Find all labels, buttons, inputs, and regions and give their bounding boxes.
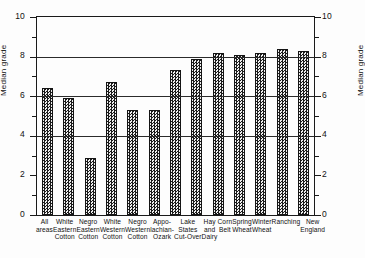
- bar-white-western-cotton: [106, 82, 117, 215]
- y-tick-left-4: [30, 136, 37, 137]
- y-tick-label-right-4: 4: [322, 130, 327, 139]
- median-grade-bar-chart: Median grade Median grade Allareas White…: [0, 0, 365, 258]
- bar-slot: [271, 17, 292, 215]
- bar-slot: [122, 17, 143, 215]
- y-tick-label-left-10: 10: [0, 12, 25, 21]
- x-category-label-1: WhiteEasternCotton: [53, 218, 76, 241]
- x-category-line: Cut-Over: [174, 233, 202, 241]
- bar-slot: [165, 17, 186, 215]
- x-category-label-0: Allareas: [36, 218, 53, 241]
- y-tick-left-3: [32, 156, 37, 157]
- y-tick-label-right-0: 0: [322, 210, 327, 219]
- x-category-line: England: [300, 226, 325, 234]
- y-tick-right-7: [314, 76, 319, 77]
- y-tick-label-left-2: 2: [0, 170, 25, 179]
- x-category-label-4: NegroWesternCotton: [125, 218, 150, 241]
- y-tick-left-8: [30, 57, 37, 58]
- y-tick-right-3: [314, 156, 319, 157]
- x-category-line: Negro: [125, 218, 150, 226]
- y-tick-left-5: [32, 116, 37, 117]
- x-category-line: Negro: [76, 218, 99, 226]
- x-category-label-11: Ranching: [272, 218, 301, 241]
- x-category-line: Winter: [252, 218, 272, 226]
- y-tick-left-10: [30, 17, 37, 18]
- y-tick-right-9: [314, 37, 319, 38]
- y-tick-right-6: [314, 96, 321, 97]
- x-category-line: areas: [36, 226, 53, 234]
- x-category-line: Cotton: [100, 233, 125, 241]
- x-category-line: Spring: [232, 218, 252, 226]
- y-tick-right-1: [314, 195, 319, 196]
- x-category-label-6: LakeStatesCut-Over: [174, 218, 202, 241]
- gridline-6: [37, 96, 314, 97]
- x-category-line: New: [300, 218, 325, 226]
- bar-negro-western-cotton: [127, 110, 138, 215]
- x-category-line: Corn: [218, 218, 233, 226]
- y-tick-label-left-6: 6: [0, 91, 25, 100]
- bar-lake-states-cut-over: [170, 70, 181, 215]
- bar-new-england: [298, 51, 309, 215]
- x-category-label-5: Appo-lachian-Ozark: [150, 218, 174, 241]
- x-category-line: White: [53, 218, 76, 226]
- bar-slot: [250, 17, 271, 215]
- bar-slot: [37, 17, 58, 215]
- x-category-label-7: HayandDairy: [202, 218, 218, 241]
- x-axis-category-labels: Allareas WhiteEasternCottonNegroEasternC…: [36, 218, 313, 241]
- bar-hay-and-dairy: [191, 59, 202, 215]
- x-category-line: Ranching: [272, 218, 301, 226]
- y-tick-left-0: [30, 215, 37, 216]
- x-category-line: Western: [100, 226, 125, 234]
- bar-series: [37, 17, 314, 215]
- y-tick-left-9: [32, 37, 37, 38]
- y-tick-right-8: [314, 57, 321, 58]
- x-category-line: Hay: [202, 218, 218, 226]
- x-category-line: Eastern: [76, 226, 99, 234]
- y-tick-label-right-2: 2: [322, 170, 327, 179]
- x-category-line: Western: [125, 226, 150, 234]
- bar-all-areas: [42, 88, 53, 215]
- x-category-line: Wheat: [252, 226, 272, 234]
- y-tick-left-2: [30, 175, 37, 176]
- x-category-line: Eastern: [53, 226, 76, 234]
- bar-corn-belt: [213, 53, 224, 215]
- bar-slot: [144, 17, 165, 215]
- y-tick-label-right-10: 10: [322, 12, 332, 21]
- y-tick-right-4: [314, 136, 321, 137]
- plot-area: [36, 16, 315, 216]
- x-category-line: Wheat: [232, 226, 252, 234]
- y-tick-label-left-0: 0: [0, 210, 25, 219]
- x-category-line: White: [100, 218, 125, 226]
- x-category-line: Cotton: [76, 233, 99, 241]
- bar-slot: [293, 17, 314, 215]
- bar-slot: [229, 17, 250, 215]
- bar-slot: [101, 17, 122, 215]
- x-category-label-10: WinterWheat: [252, 218, 272, 241]
- bar-slot: [58, 17, 79, 215]
- x-category-line: Cotton: [125, 233, 150, 241]
- y-tick-label-left-4: 4: [0, 130, 25, 139]
- gridline-4: [37, 136, 314, 137]
- y-tick-right-0: [314, 215, 321, 216]
- x-category-line: All: [36, 218, 53, 226]
- x-category-line: Cotton: [53, 233, 76, 241]
- y-tick-right-5: [314, 116, 319, 117]
- y-tick-label-right-8: 8: [322, 51, 327, 60]
- bar-appalachian-ozark: [149, 110, 160, 215]
- x-category-label-9: SpringWheat: [232, 218, 252, 241]
- bar-negro-eastern-cotton: [85, 158, 96, 215]
- y-tick-left-7: [32, 76, 37, 77]
- bar-slot: [80, 17, 101, 215]
- x-category-line: Appo-: [150, 218, 174, 226]
- bar-ranching: [277, 49, 288, 215]
- x-category-line: and: [202, 226, 218, 234]
- bar-slot: [186, 17, 207, 215]
- bar-white-eastern-cotton: [63, 98, 74, 215]
- y-tick-label-left-8: 8: [0, 51, 25, 60]
- x-category-label-12: NewEngland: [300, 218, 325, 241]
- y-tick-right-2: [314, 175, 321, 176]
- bar-winter-wheat: [255, 53, 266, 215]
- x-category-label-8: CornBelt: [218, 218, 233, 241]
- bar-slot: [208, 17, 229, 215]
- y-tick-left-6: [30, 96, 37, 97]
- x-category-label-3: WhiteWesternCotton: [100, 218, 125, 241]
